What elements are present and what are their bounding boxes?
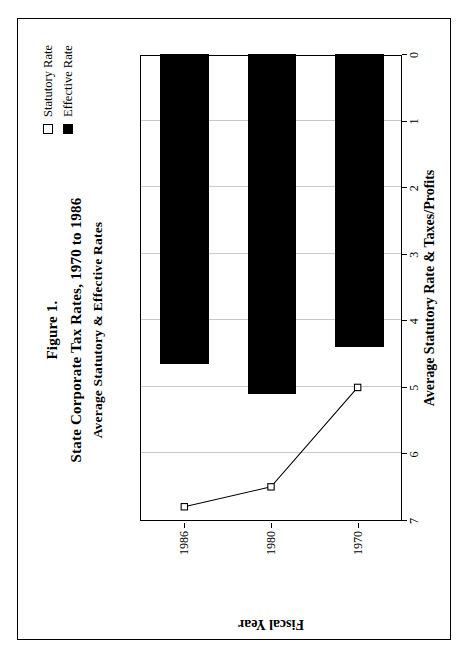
- category-label-1986: 1986: [176, 531, 191, 555]
- data-point-marker-1970: [354, 384, 360, 390]
- legend-label-statutory-rate: Statutory Rate: [42, 45, 55, 117]
- category-axis: 197019801986: [140, 523, 402, 581]
- value-tick-label: 4: [407, 318, 422, 324]
- value-axis: 76543210: [402, 55, 418, 521]
- value-tick-label: 1: [407, 119, 422, 125]
- value-axis-title: Average Statutory Rate & Taxes/Profits: [422, 55, 438, 521]
- legend-label-effective-rate: Effective Rate: [62, 45, 75, 117]
- category-tick: [358, 523, 359, 528]
- rotated-figure-canvas: Figure 1. State Corporate Tax Rates, 197…: [18, 19, 452, 641]
- category-tick: [271, 523, 272, 528]
- data-point-marker-1980: [268, 484, 274, 490]
- plot-area: [140, 55, 402, 521]
- category-label-1980: 1980: [264, 531, 279, 555]
- category-label-1970: 1970: [351, 531, 366, 555]
- legend-swatch-open-square-icon: [43, 124, 53, 134]
- value-tick-label: 0: [407, 52, 422, 58]
- value-tick-label: 2: [407, 185, 422, 191]
- value-tick-label: 5: [407, 385, 422, 391]
- value-tick-label: 7: [407, 518, 422, 524]
- chart-subtitle: Average Statutory & Effective Rates: [90, 19, 106, 641]
- value-tick-label: 6: [407, 451, 422, 457]
- figure-page: Figure 1. State Corporate Tax Rates, 197…: [0, 0, 468, 657]
- line-series-statutory-rate: [141, 56, 401, 520]
- legend-swatch-filled-square-icon: [63, 124, 73, 134]
- value-tick-label: 3: [407, 252, 422, 258]
- category-axis-title: Fiscal Year: [140, 607, 402, 641]
- category-tick: [184, 523, 185, 528]
- chart-legend: Statutory Rate Effective Rate: [42, 45, 74, 134]
- figure-border: Figure 1. State Corporate Tax Rates, 197…: [17, 18, 451, 640]
- data-point-marker-1986: [181, 504, 187, 510]
- legend-item-statutory-rate: Statutory Rate: [42, 45, 55, 134]
- legend-item-effective-rate: Effective Rate: [62, 45, 75, 134]
